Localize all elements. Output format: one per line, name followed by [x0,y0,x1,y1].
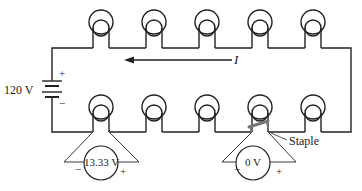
bulb-top-3 [195,10,219,48]
circuit-diagram: 120 V + − I 13.33 V − + 0 V − + Staple [0,0,362,191]
battery-icon [42,81,62,97]
bulb-bottom-3 [195,95,219,132]
voltmeter-1-minus: − [75,164,81,175]
battery-plus-sign: + [59,68,65,79]
bulb-bottom-1 [89,95,113,132]
staple-label: Staple [289,135,319,147]
staple-pointer [271,133,287,140]
current-arrow-icon [124,57,232,64]
battery-minus-sign: − [59,98,65,109]
bulb-bottom-5 [301,95,325,132]
voltmeter-2-minus: − [234,164,240,175]
battery-voltage-label: 120 V [4,84,33,96]
voltmeter-1-reading: 13.33 V [84,157,118,168]
bulb-top-5 [301,10,325,48]
voltmeter-1-plus: + [120,166,126,177]
circuit-svg [0,0,362,191]
bulb-top-1 [89,10,113,48]
voltmeter-2-reading: 0 V [236,157,270,168]
bulb-bottom-2 [142,95,166,132]
bulb-top-2 [142,10,166,48]
voltmeter-2-plus: + [276,166,282,177]
bulb-top-4 [248,10,272,48]
current-label: I [234,53,238,66]
